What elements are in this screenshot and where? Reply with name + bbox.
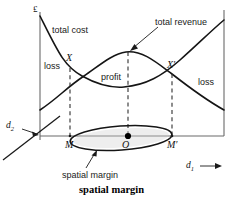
d1-arrow-head	[215, 163, 222, 169]
point-label-origin: O	[122, 140, 129, 150]
d2-axis-label: d2	[6, 121, 14, 132]
d1-axis-label: d1	[186, 161, 194, 172]
m-right-marker	[171, 135, 174, 138]
point-label-m-right: M′	[167, 140, 178, 150]
loss-label-left: loss	[44, 62, 60, 71]
spatial-margin-leader-head	[92, 150, 98, 157]
y-axis-currency-symbol: £	[33, 5, 38, 14]
point-label-m-left: M	[65, 140, 73, 150]
loss-label-right: loss	[198, 78, 214, 87]
profit-label: profit	[101, 73, 121, 82]
point-label-x-right: X′	[167, 60, 175, 70]
spatial-margin-figure: £ total cost total revenue loss profit l…	[0, 0, 243, 199]
total-cost-label: total cost	[52, 26, 88, 35]
spatial-margin-ellipse-shading	[72, 125, 169, 151]
point-label-x-left: X	[66, 53, 72, 63]
figure-caption: spatial margin	[79, 185, 144, 196]
total-revenue-leader-shaft	[133, 27, 158, 48]
m-left-marker	[69, 135, 72, 138]
spatial-margin-annotation: spatial margin	[62, 171, 118, 180]
d1-axis-label-sub: 1	[191, 165, 194, 172]
d2-axis-label-sub: 2	[11, 125, 14, 132]
diagram-canvas	[0, 0, 243, 199]
total-revenue-label: total revenue	[155, 18, 207, 27]
